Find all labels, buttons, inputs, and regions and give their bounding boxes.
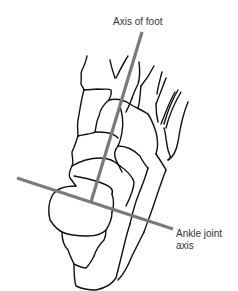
hindfoot-bones [49,166,166,290]
toes [81,56,188,160]
foot-axis-diagram: Axis of foot Ankle joint axis [0,0,238,291]
ankle-joint-axis-label-line1: Ankle joint [176,228,222,240]
ankle-joint-axis-label: Ankle joint axis [176,228,222,252]
axis-of-foot-label: Axis of foot [113,16,162,28]
ankle-joint-axis-label-line2: axis [176,240,222,252]
